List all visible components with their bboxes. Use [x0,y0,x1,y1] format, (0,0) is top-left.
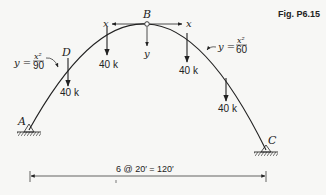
figure-caption: Fig. P6.15 [278,9,320,19]
x-axis-left-label: x [103,18,109,29]
svg-text:90: 90 [33,60,45,71]
x-axis-right-label: x [186,18,192,29]
svg-text:y =: y = [13,57,31,68]
right-equation: y = x² 60 [207,36,248,55]
hinge-b [145,22,150,27]
point-label-d: D [61,46,71,59]
svg-text:40 k: 40 k [60,87,80,98]
left-equation: y = x² 90 [13,52,58,71]
span-dimension: 6 @ 20′ = 120′ [30,164,266,183]
svg-text:60: 60 [236,44,248,55]
point-label-b: B [142,8,151,21]
svg-text:40 k: 40 k [179,65,199,76]
point-label-a: A [17,115,26,128]
point-label-c: C [268,134,277,147]
svg-text:40 k: 40 k [218,103,238,114]
svg-text:6 @ 20′ = 120′: 6 @ 20′ = 120′ [116,164,174,174]
svg-text:40 k: 40 k [99,59,119,70]
load-arrow: 40 k [179,33,199,76]
y-axis-label: y [143,48,150,59]
svg-text:y =: y = [217,41,235,52]
arch-diagram: Fig. P6.15 B x x y D y = x² 90 y = x² 60… [0,0,326,195]
